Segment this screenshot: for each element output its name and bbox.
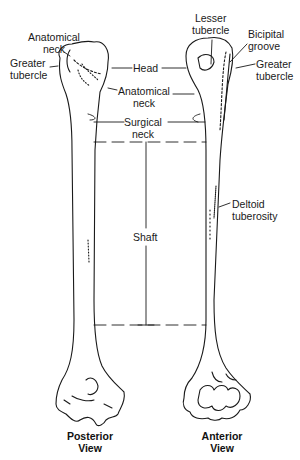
label-anatomical-neck-anterior: Anatomical neck xyxy=(118,85,170,109)
label-bicipital-groove: Bicipital groove xyxy=(248,28,284,52)
caption-anterior-view: Anterior View xyxy=(192,430,252,454)
label-deltoid-tuberosity: Deltoid tuberosity xyxy=(232,198,278,222)
humerus-diagram: Anatomical neck Greater tubercle Head An… xyxy=(0,0,300,460)
label-head: Head xyxy=(133,62,158,74)
label-anatomical-neck-posterior: Anatomical neck xyxy=(28,31,80,55)
label-greater-tubercle-posterior: Greater tubercle xyxy=(10,57,47,81)
label-lesser-tubercle: Lesser tubercle xyxy=(192,12,229,36)
caption-posterior-view: Posterior View xyxy=(60,430,120,454)
posterior-humerus-bone xyxy=(56,41,124,425)
leader-lines xyxy=(50,40,255,325)
label-greater-tubercle-anterior: Greater tubercle xyxy=(256,58,293,82)
anterior-humerus-bone xyxy=(183,37,250,420)
label-surgical-neck: Surgical neck xyxy=(124,116,162,140)
label-shaft: Shaft xyxy=(133,231,158,243)
